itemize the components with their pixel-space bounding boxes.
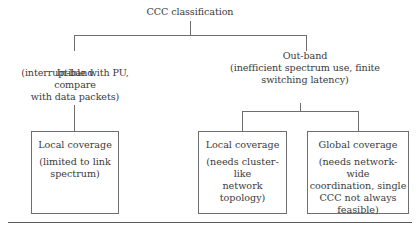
connector-outband-down (300, 103, 301, 111)
connector-to-outband-local (242, 111, 243, 131)
connector-root-horizontal (74, 35, 307, 36)
outband-title: Out-band (225, 50, 385, 62)
connector-root-down (190, 21, 191, 36)
box-desc: (limited to link spectrum) (32, 156, 118, 180)
root-node-label: CCC classification (140, 6, 240, 18)
connector-inband-to-local (74, 105, 75, 131)
connector-to-inband (74, 35, 75, 51)
box-title: Local coverage (32, 139, 118, 151)
box-desc: (needs network-wide coordination, single… (308, 156, 408, 216)
inband-desc: (interruptible with PU, compare with dat… (0, 67, 150, 103)
connector-to-outband-global (358, 111, 359, 131)
inband-local-coverage-box: Local coverage (limited to link spectrum… (31, 131, 119, 214)
box-title: Local coverage (199, 139, 286, 151)
connector-outband-horizontal (242, 111, 359, 112)
box-desc: (needs cluster-like network topology) (199, 156, 286, 204)
bottom-divider (8, 222, 412, 223)
box-title: Global coverage (308, 139, 408, 151)
connector-to-outband (306, 35, 307, 51)
outband-desc: (inefficient spectrum use, finite switch… (225, 62, 385, 86)
outband-local-coverage-box: Local coverage (needs cluster-like netwo… (198, 131, 287, 214)
outband-global-coverage-box: Global coverage (needs network-wide coor… (307, 131, 409, 214)
